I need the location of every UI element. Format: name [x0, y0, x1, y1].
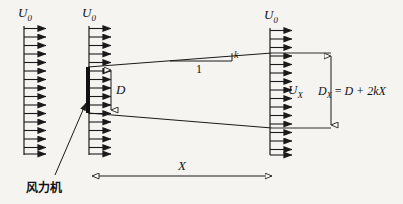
label-u0-rotor: U0: [82, 6, 96, 22]
label-wind-turbine-cn: 风力机: [26, 182, 62, 194]
freestream-velocity-profile: [24, 26, 46, 155]
label-ux: UX: [288, 83, 303, 99]
turbine-leader-line: [55, 103, 86, 175]
label-wake-diameter-equation: DX = D + 2kX: [318, 85, 386, 101]
label-u0-freestream: U0: [18, 6, 32, 22]
diagram-canvas: [0, 0, 403, 204]
label-u0-downstream: U0: [264, 8, 278, 24]
label-slope-rise: k: [234, 50, 238, 60]
label-downstream-distance: X: [178, 159, 186, 172]
wind-turbine-wake-diagram: U0 U0 U0 UX D X 1 k DX = D + 2kX 风力机: [0, 0, 403, 204]
label-rotor-diameter: D: [116, 83, 125, 96]
label-slope-run: 1: [196, 63, 202, 75]
rotor-plane-velocity-profile: [88, 26, 111, 155]
